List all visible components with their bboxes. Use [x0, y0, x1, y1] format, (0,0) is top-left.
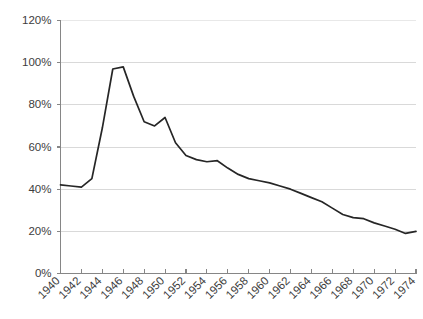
- x-tick-label: 1962: [265, 274, 292, 301]
- x-tick-label: 1972: [370, 274, 397, 301]
- x-tick-label: 1958: [224, 274, 251, 301]
- y-tick-label: 120%: [22, 14, 51, 26]
- x-tick-label: 1964: [286, 274, 313, 301]
- x-tick-label: 1966: [307, 274, 334, 301]
- x-tick-label: 1948: [119, 274, 146, 301]
- x-tick-label: 1960: [244, 274, 271, 301]
- x-tick-label: 1974: [391, 274, 418, 301]
- x-tick-label: 1956: [203, 274, 230, 301]
- x-tick-label: 1944: [77, 274, 104, 301]
- y-tick-label: 60%: [28, 141, 51, 153]
- y-tick-label: 100%: [22, 56, 51, 68]
- series-line-path: [61, 67, 417, 234]
- gridlines: [61, 21, 417, 232]
- chart-container: 0%20%40%60%80%100%120% 19401942194419461…: [0, 0, 423, 319]
- x-tick-label: 1946: [98, 274, 125, 301]
- y-tick-label: 80%: [28, 98, 51, 110]
- x-tick-label: 1952: [161, 274, 188, 301]
- y-tick-label: 20%: [28, 225, 51, 237]
- line-chart: 0%20%40%60%80%100%120% 19401942194419461…: [0, 0, 423, 319]
- y-axis-tick-labels: 0%20%40%60%80%100%120%: [22, 14, 51, 279]
- x-tick-label: 1970: [349, 274, 376, 301]
- y-tick-label: 0%: [35, 267, 52, 279]
- x-tick-label: 1942: [56, 274, 83, 301]
- data-series: [61, 67, 417, 234]
- x-axis-tick-labels: 1940194219441946194819501952195419561958…: [35, 274, 418, 301]
- x-tick-label: 1950: [140, 274, 167, 301]
- y-tick-label: 40%: [28, 183, 51, 195]
- x-tick-label: 1968: [328, 274, 355, 301]
- x-tick-label: 1954: [182, 274, 209, 301]
